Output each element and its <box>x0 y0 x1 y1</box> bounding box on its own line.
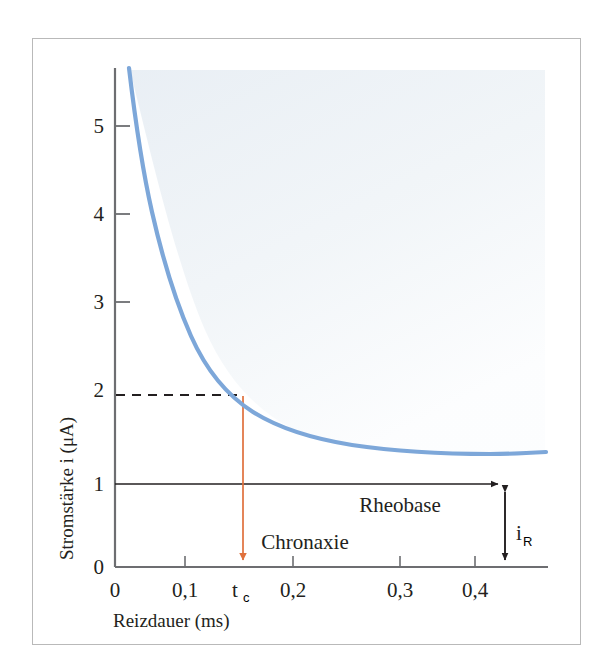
tc-label-main: t <box>232 578 238 602</box>
x-tick-label-0-1: 0,1 <box>172 578 198 602</box>
chronaxie-label: Chronaxie <box>261 530 348 554</box>
y-tick-label-2: 2 <box>94 378 105 402</box>
y-tick-label-4: 4 <box>94 202 105 226</box>
ir-label-main: i <box>516 521 522 545</box>
chart-svg: 5 4 3 2 1 0 0 0,1 0,2 0,3 0,4 t c Stroms… <box>0 0 601 666</box>
ir-label: i R <box>516 521 532 549</box>
shaded-region <box>130 70 545 456</box>
ir-label-sub: R <box>523 534 532 549</box>
rheobase-label: Rheobase <box>359 493 441 517</box>
y-tick-label-5: 5 <box>94 114 105 138</box>
x-tick-label-0-3: 0,3 <box>387 578 413 602</box>
x-axis-title: Reizdauer (ms) <box>113 610 230 632</box>
x-tick-label-0-4: 0,4 <box>462 578 489 602</box>
y-tick-label-3: 3 <box>94 290 105 314</box>
x-tick-label-0: 0 <box>110 578 121 602</box>
figure-container: 5 4 3 2 1 0 0 0,1 0,2 0,3 0,4 t c Stroms… <box>0 0 601 666</box>
y-axis <box>115 68 130 567</box>
y-tick-label-0: 0 <box>94 555 105 579</box>
tc-label-sub: c <box>243 590 250 605</box>
y-tick-label-1: 1 <box>94 472 105 496</box>
y-axis-title: Stromstärke i (μA) <box>56 417 78 560</box>
x-axis <box>115 556 548 567</box>
x-tick-label-tc: t c <box>232 578 250 605</box>
x-tick-label-0-2: 0,2 <box>280 578 306 602</box>
